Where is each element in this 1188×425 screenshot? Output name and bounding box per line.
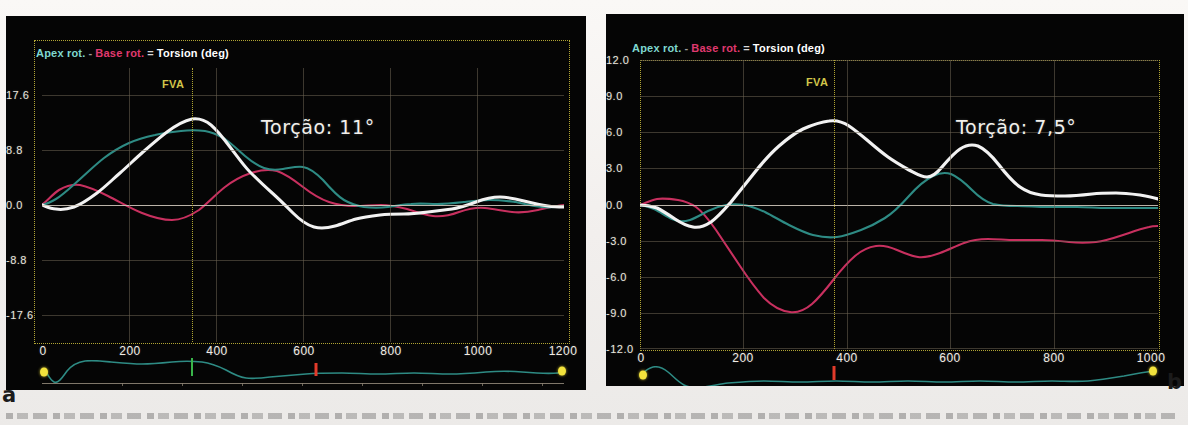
xtick-a-5: 1000	[464, 344, 493, 358]
gridline-y-neg9	[640, 313, 1158, 314]
ecg-strip-b	[640, 366, 1158, 386]
gridline-y-9	[640, 96, 1158, 97]
gridline-y-neg3	[640, 241, 1158, 242]
gridline-x-400	[847, 60, 848, 349]
gridline-y-neg12	[640, 348, 1158, 349]
gridline-x-800	[390, 68, 391, 342]
strip-tick	[242, 383, 243, 386]
ecg-trace-b	[640, 366, 1158, 386]
ytick-a-4: -17.6	[6, 309, 38, 321]
xtick-b-2: 400	[836, 351, 858, 365]
xtick-a-2: 400	[206, 344, 228, 358]
fva-label-b: FVA	[806, 76, 828, 88]
legend-equals-symbol: =	[743, 42, 750, 54]
ecg-baseline-a	[42, 383, 564, 384]
xtick-b-0: 0	[637, 351, 644, 365]
gridline-y-12	[640, 60, 1158, 61]
ytick-b-3: 3.0	[606, 162, 636, 174]
torsion-panel-b[interactable]: Apex rot.-Base rot.=Torsion (deg)	[606, 14, 1184, 386]
ytick-a-0: 17.6	[6, 89, 38, 101]
end-marker-dot-b[interactable]	[1149, 367, 1157, 376]
strip-tick	[122, 383, 123, 386]
legend-equals-symbol: =	[147, 47, 154, 59]
curve-base-rot-b	[640, 199, 1158, 313]
gridline-x-200	[743, 60, 744, 349]
gridline-x-600	[303, 68, 304, 342]
event-marker-red-a[interactable]	[315, 363, 318, 376]
ytick-a-2: 0.0	[6, 199, 38, 211]
caption-fragment	[0, 411, 1188, 425]
gridline-x-200	[129, 68, 130, 342]
legend-apex-label: Apex rot.	[632, 42, 681, 54]
ytick-b-7: -9.0	[606, 307, 636, 319]
legend-base-label: Base rot.	[95, 47, 144, 59]
legend-b: Apex rot.-Base rot.=Torsion (deg)	[632, 42, 828, 54]
ytick-b-5: -3.0	[606, 235, 636, 247]
ytick-a-3: -8.8	[6, 254, 38, 266]
gridline-x-1000	[477, 68, 478, 342]
ytick-b-8: -12.0	[606, 343, 636, 355]
figure-label-a: a	[2, 383, 16, 407]
ytick-b-0: 12.0	[606, 54, 636, 66]
torsion-value-annotation-a: Torção: 11°	[261, 116, 375, 138]
gridline-x-800	[1054, 60, 1055, 349]
fva-marker-line-a	[192, 68, 193, 342]
figure-label-b: b	[1167, 370, 1182, 394]
xtick-a-4: 800	[380, 344, 402, 358]
gridline-y-3	[640, 168, 1158, 169]
xtick-a-3: 600	[293, 344, 315, 358]
start-marker-dot-b[interactable]	[639, 371, 647, 380]
legend-base-label: Base rot.	[691, 42, 740, 54]
ytick-b-6: -6.0	[606, 271, 636, 283]
gridline-x-600	[950, 60, 951, 349]
end-marker-dot-a[interactable]	[558, 367, 566, 376]
strip-tick	[362, 383, 363, 386]
gridline-y-neg6	[640, 277, 1158, 278]
legend-apex-label: Apex rot.	[36, 47, 85, 59]
xtick-b-5: 1000	[1137, 351, 1166, 365]
xtick-b-1: 200	[732, 351, 754, 365]
xtick-b-3: 600	[939, 351, 961, 365]
ytick-a-1: 8.8	[6, 144, 38, 156]
gridline-x-400	[216, 68, 217, 342]
xtick-a-0: 0	[39, 344, 46, 358]
legend-a: Apex rot.-Base rot.=Torsion (deg)	[36, 47, 232, 59]
legend-minus-symbol: -	[88, 47, 92, 59]
zero-baseline-b	[640, 205, 1158, 206]
torsion-panel-a[interactable]: Apex rot.-Base rot.=Torsion (deg)	[6, 16, 586, 390]
gridline-y-6	[640, 132, 1158, 133]
legend-torsion-label: Torsion (deg)	[157, 47, 229, 59]
start-marker-dot-a[interactable]	[40, 368, 48, 377]
strip-tick	[542, 383, 543, 386]
strip-tick	[482, 383, 483, 386]
ytick-b-1: 9.0	[606, 90, 636, 102]
plot-area-a	[42, 68, 564, 342]
event-marker-red-b[interactable]	[833, 366, 836, 380]
ytick-b-2: 6.0	[606, 126, 636, 138]
fva-marker-green-a[interactable]	[191, 358, 193, 376]
ecg-strip-a	[42, 360, 564, 386]
plot-area-b	[640, 60, 1158, 349]
strip-tick	[302, 383, 303, 386]
legend-torsion-label: Torsion (deg)	[753, 42, 825, 54]
fva-marker-line-b	[834, 60, 835, 349]
xtick-a-1: 200	[119, 344, 141, 358]
curve-torsion-b	[640, 121, 1158, 228]
legend-minus-symbol: -	[684, 42, 688, 54]
strip-tick	[182, 383, 183, 386]
fva-label-a: FVA	[162, 78, 184, 90]
ytick-b-4: 0.0	[606, 199, 636, 211]
xtick-a-6: 1200	[549, 344, 578, 358]
strip-tick	[422, 383, 423, 386]
torsion-value-annotation-b: Torção: 7,5°	[956, 116, 1076, 138]
xtick-b-4: 800	[1043, 351, 1065, 365]
